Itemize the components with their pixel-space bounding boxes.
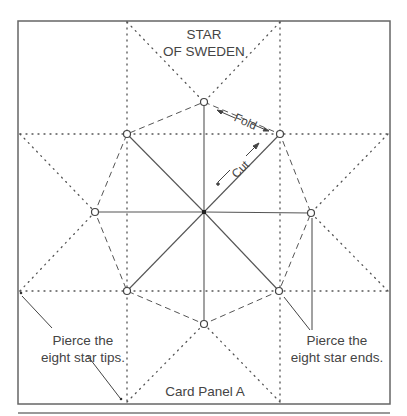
pointer-dot bbox=[20, 292, 23, 295]
pierce-tips-label: Pierce the eight star tips. bbox=[28, 332, 138, 366]
pierce-tips-line2: eight star tips. bbox=[28, 349, 138, 366]
pierce-ends-line2: eight star ends. bbox=[287, 349, 387, 366]
center-dot bbox=[202, 210, 206, 214]
pierce-tips-line1: Pierce the bbox=[28, 332, 138, 349]
title-line1: STAR bbox=[150, 26, 258, 43]
diagram-title: STAR OF SWEDEN bbox=[150, 26, 258, 60]
pierce-ends-line1: Pierce the bbox=[287, 332, 387, 349]
fold-label: Fold bbox=[232, 111, 259, 133]
pierce-ends-label: Pierce the eight star ends. bbox=[287, 332, 387, 366]
cut-label: Cut bbox=[229, 157, 253, 181]
pointer-dot bbox=[120, 398, 123, 401]
card-panel-label: Card Panel A bbox=[150, 383, 260, 400]
title-line2: OF SWEDEN bbox=[150, 43, 258, 60]
